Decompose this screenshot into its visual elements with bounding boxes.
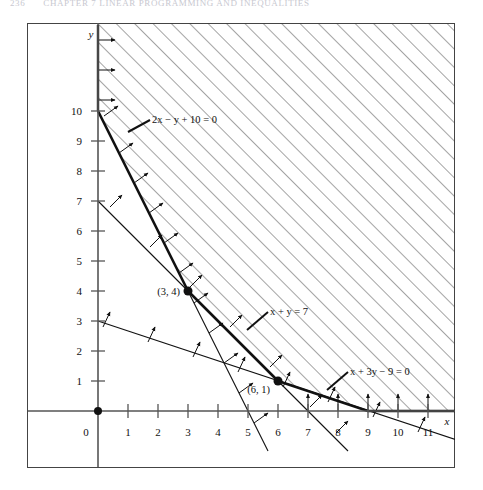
x-tick-label: 4: [215, 426, 221, 438]
x-axis-label: x: [444, 415, 450, 427]
y-tick-label: 2: [77, 345, 83, 357]
y-tick-label: 8: [77, 165, 83, 177]
x-tick-label: 10: [393, 426, 405, 438]
y-tick-label: 10: [71, 105, 83, 117]
x-tick-label: 3: [185, 426, 191, 438]
x-tick-label: 2: [155, 426, 161, 438]
x-tick-label: 8: [335, 426, 341, 438]
vertex-label-6-1: (6, 1): [247, 384, 270, 396]
y-tick-label: 9: [77, 135, 83, 147]
graph-canvas: 0 1 2 3 4 5 6 7 8 9 10 11 1 2 3 4 5 6 7 …: [0, 0, 483, 490]
y-tick-label: 3: [77, 315, 83, 327]
equation-label-x-plus-y-7: x + y = 7: [270, 306, 308, 317]
x-tick-label: 9: [365, 426, 371, 438]
y-tick-label: 6: [77, 225, 83, 237]
equation-label-2x-minus-y-plus-10: 2x − y + 10 = 0: [152, 114, 217, 125]
vertex-label-3-4: (3, 4): [157, 286, 180, 298]
equation-label-x-plus-3y-minus-9: x + 3y − 9 = 0: [350, 366, 410, 377]
y-tick-label: 7: [77, 195, 83, 207]
x-tick-label: 7: [305, 426, 311, 438]
x-tick-label: 0: [83, 426, 89, 438]
y-tick-label: 1: [77, 375, 83, 387]
x-tick-label: 11: [423, 426, 434, 438]
vertex-point-3-4: [184, 287, 193, 296]
y-tick-label: 5: [77, 255, 83, 267]
vertex-point-6-1: [274, 377, 283, 386]
x-tick-label: 6: [275, 426, 281, 438]
y-tick-label: 4: [77, 285, 83, 297]
x-tick-label: 5: [245, 426, 251, 438]
origin-point-marker: [94, 407, 102, 415]
x-tick-label: 1: [125, 426, 131, 438]
y-axis-label: y: [88, 28, 94, 40]
feasible-region-figure: 0 1 2 3 4 5 6 7 8 9 10 11 1 2 3 4 5 6 7 …: [0, 0, 483, 490]
